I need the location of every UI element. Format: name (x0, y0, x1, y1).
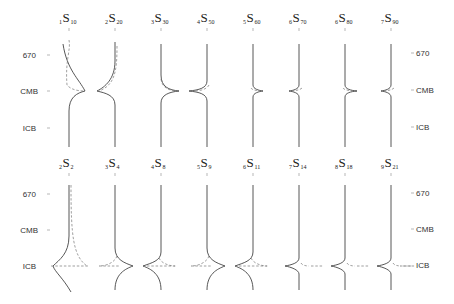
svg-text:S: S (63, 10, 70, 25)
mode-label-6S80: 6S80 (335, 10, 353, 25)
mode-label-7S90: 7S90 (381, 10, 399, 25)
mode-label-3S30: 3S30 (151, 10, 169, 25)
kernel-solid-curve (381, 44, 391, 147)
kernel-solid-curve (345, 44, 357, 147)
svg-text:10: 10 (71, 19, 77, 25)
svg-text:S: S (201, 10, 208, 25)
svg-text:S: S (385, 10, 392, 25)
mode-label-3S4: 3S4 (105, 155, 120, 170)
sensitivity-kernels-figure: 670 CMB ICB 670 CMB ICB 670 CMB ICB 670 … (0, 0, 454, 304)
svg-text:4: 4 (117, 164, 120, 170)
mode-label-4S50: 4S50 (197, 10, 215, 25)
svg-text:9: 9 (209, 164, 212, 170)
svg-text:S: S (109, 10, 116, 25)
mode-label-5S9: 5S9 (197, 155, 212, 170)
kernel-solid-curve (253, 44, 263, 147)
kernel-dashed-curve (347, 263, 369, 266)
kernel-solid-curve (189, 44, 207, 147)
svg-text:S: S (155, 155, 162, 170)
mode-label-4S8: 4S8 (151, 155, 166, 170)
kernel-dashed-curve (99, 256, 119, 266)
mode-label-6S70: 6S70 (289, 10, 307, 25)
svg-text:S: S (155, 10, 162, 25)
svg-text:2: 2 (71, 164, 74, 170)
svg-text:8: 8 (163, 164, 166, 170)
svg-text:S: S (293, 10, 300, 25)
kernel-solid-curve (115, 185, 133, 290)
kernel-solid-curve (53, 185, 71, 292)
kernel-dashed-curve (147, 258, 177, 266)
mode-label-8S18: 8S18 (335, 155, 353, 170)
svg-text:S: S (293, 155, 300, 170)
svg-text:14: 14 (301, 164, 307, 170)
label-670-left-top: 670 (23, 51, 37, 60)
svg-text:21: 21 (393, 164, 399, 170)
label-670-left-bottom: 670 (23, 190, 37, 199)
label-icb-right-bottom: ICB (416, 261, 429, 270)
label-icb-right-top: ICB (416, 123, 429, 132)
kernel-dashed-curve (301, 263, 323, 266)
kernel-dashed-curve (239, 258, 269, 266)
kernel-solid-curve (63, 44, 85, 147)
kernel-solid-curve (285, 185, 299, 290)
svg-text:18: 18 (347, 164, 353, 170)
mode-label-1S10: 1S10 (59, 10, 77, 25)
kernel-dashed-curve (393, 263, 415, 266)
label-cmb-left-bottom: CMB (20, 226, 38, 235)
svg-text:S: S (247, 10, 254, 25)
svg-text:80: 80 (347, 19, 353, 25)
kernel-solid-curve (97, 42, 115, 147)
mode-label-2S2: 2S2 (59, 155, 74, 170)
svg-text:S: S (63, 155, 70, 170)
svg-text:S: S (109, 155, 116, 170)
kernel-solid-curve (289, 44, 299, 147)
mode-label-6S11: 6S11 (243, 155, 260, 170)
svg-text:S: S (339, 155, 346, 170)
kernel-dashed-curve (191, 256, 211, 266)
label-icb-left-top: ICB (23, 124, 36, 133)
label-cmb-right-bottom: CMB (416, 225, 434, 234)
mode-label-9S21: 9S21 (381, 155, 399, 170)
svg-text:11: 11 (255, 164, 261, 170)
svg-text:60: 60 (255, 19, 261, 25)
kernel-dashed-curve (51, 185, 89, 266)
svg-text:S: S (385, 155, 392, 170)
label-670-right-bottom: 670 (416, 189, 430, 198)
svg-text:S: S (247, 155, 254, 170)
svg-text:50: 50 (209, 19, 215, 25)
label-cmb-left-top: CMB (20, 87, 38, 96)
kernel-solid-curve (161, 44, 179, 147)
svg-text:20: 20 (117, 19, 123, 25)
svg-text:30: 30 (163, 19, 169, 25)
svg-text:70: 70 (301, 19, 307, 25)
label-cmb-right-top: CMB (416, 86, 434, 95)
mode-label-5S60: 5S60 (243, 10, 261, 25)
svg-text:S: S (339, 10, 346, 25)
mode-label-7S14: 7S14 (289, 155, 307, 170)
label-670-right-top: 670 (416, 49, 430, 58)
svg-text:90: 90 (393, 19, 399, 25)
kernel-solid-curve (377, 185, 391, 290)
label-icb-left-bottom: ICB (23, 262, 36, 271)
kernel-solid-curve (235, 185, 253, 290)
mode-label-2S20: 2S20 (105, 10, 123, 25)
kernel-solid-curve (207, 185, 225, 290)
kernel-solid-curve (331, 185, 345, 290)
svg-text:S: S (201, 155, 208, 170)
kernel-solid-curve (143, 185, 161, 290)
